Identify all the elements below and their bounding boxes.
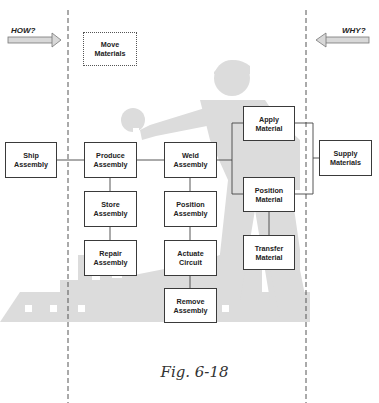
box-label-line1: Transfer bbox=[255, 244, 283, 253]
box-label-line2: Material bbox=[255, 124, 282, 133]
box-label-line2: Assembly bbox=[14, 160, 48, 169]
why-arrow-icon bbox=[316, 33, 369, 47]
function-apply-material: Apply Material bbox=[243, 106, 295, 141]
figure-caption-text: Fig. 6-18 bbox=[160, 363, 228, 381]
box-label-line2: Assembly bbox=[174, 209, 208, 218]
box-label-line1: Ship bbox=[14, 151, 48, 160]
box-label-line2: Assembly bbox=[94, 160, 128, 169]
box-label-line1: Remove bbox=[174, 297, 208, 306]
box-label-line1: Repair bbox=[94, 249, 128, 258]
box-label-line1: Weld bbox=[174, 151, 208, 160]
function-store-assembly: Store Assembly bbox=[84, 191, 137, 227]
function-position-assembly: Position Assembly bbox=[164, 191, 217, 227]
function-weld-assembly: Weld Assembly bbox=[164, 142, 217, 178]
box-label-line2: Materials bbox=[94, 49, 125, 58]
box-label-line2: Assembly bbox=[174, 306, 208, 315]
function-actuate-circuit: Actuate Circuit bbox=[164, 240, 217, 276]
function-ship-assembly: Ship Assembly bbox=[5, 142, 57, 178]
how-arrow-icon bbox=[8, 33, 61, 47]
box-label-line1: Supply bbox=[330, 149, 361, 158]
box-label-line2: Material bbox=[255, 195, 283, 204]
box-label-line1: Apply bbox=[255, 115, 282, 124]
how-label: HOW? bbox=[11, 26, 35, 35]
scope-function-move-materials: Move Materials bbox=[83, 32, 137, 66]
function-transfer-material: Transfer Material bbox=[243, 235, 295, 270]
box-label-line2: Materials bbox=[330, 158, 361, 167]
why-label: WHY? bbox=[342, 26, 366, 35]
box-label-line2: Assembly bbox=[94, 209, 128, 218]
function-repair-assembly: Repair Assembly bbox=[84, 240, 137, 276]
figure-caption: Fig. 6-18 bbox=[0, 363, 379, 381]
box-label-line1: Actuate bbox=[177, 249, 203, 258]
box-label-line2: Assembly bbox=[174, 160, 208, 169]
box-label-line1: Move bbox=[94, 40, 125, 49]
box-label-line1: Store bbox=[94, 200, 128, 209]
box-label-line1: Produce bbox=[94, 151, 128, 160]
box-label-line2: Material bbox=[255, 253, 283, 262]
function-remove-assembly: Remove Assembly bbox=[164, 288, 217, 323]
box-label-line2: Circuit bbox=[177, 258, 203, 267]
function-supply-materials: Supply Materials bbox=[319, 140, 372, 176]
function-produce-assembly: Produce Assembly bbox=[84, 142, 137, 178]
function-position-material: Position Material bbox=[243, 177, 295, 212]
box-label-line2: Assembly bbox=[94, 258, 128, 267]
box-label-line1: Position bbox=[174, 200, 208, 209]
box-label-line1: Position bbox=[255, 186, 283, 195]
